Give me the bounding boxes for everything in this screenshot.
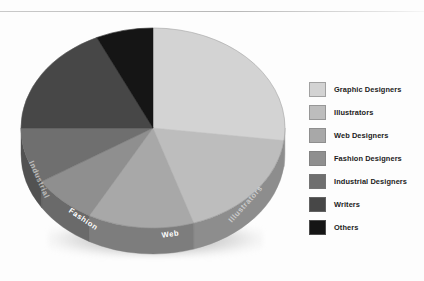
legend-swatch-icon xyxy=(309,220,326,235)
legend-item-writers[interactable]: Writers xyxy=(309,193,421,216)
legend-item-web-designers[interactable]: Web Designers xyxy=(309,124,421,147)
legend-item-illustrators[interactable]: Illustrators xyxy=(309,101,421,124)
legend-item-others[interactable]: Others xyxy=(309,216,421,239)
legend-swatch-icon xyxy=(309,151,326,166)
legend-item-label: Fashion Designers xyxy=(334,155,402,162)
legend-swatch-icon xyxy=(309,174,326,189)
legend-item-label: Web Designers xyxy=(334,132,389,139)
pie-chart: IllustratorsWebFashionIndustrial xyxy=(10,14,300,272)
legend-item-label: Writers xyxy=(334,201,360,208)
chart-page: IllustratorsWebFashionIndustrial Graphic… xyxy=(0,0,424,281)
pie-chart-svg: IllustratorsWebFashionIndustrial xyxy=(10,14,300,272)
legend-swatch-icon xyxy=(309,82,326,97)
header-divider xyxy=(0,11,424,12)
legend-item-label: Others xyxy=(334,224,358,231)
legend-swatch-icon xyxy=(309,128,326,143)
chart-legend: Graphic Designers Illustrators Web Desig… xyxy=(309,78,421,239)
legend-item-fashion-designers[interactable]: Fashion Designers xyxy=(309,147,421,170)
legend-item-graphic-designers[interactable]: Graphic Designers xyxy=(309,78,421,101)
legend-item-label: Industrial Designers xyxy=(334,178,407,185)
legend-item-label: Graphic Designers xyxy=(334,86,401,93)
legend-item-industrial-designers[interactable]: Industrial Designers xyxy=(309,170,421,193)
legend-swatch-icon xyxy=(309,197,326,212)
legend-swatch-icon xyxy=(309,105,326,120)
legend-item-label: Illustrators xyxy=(334,109,373,116)
